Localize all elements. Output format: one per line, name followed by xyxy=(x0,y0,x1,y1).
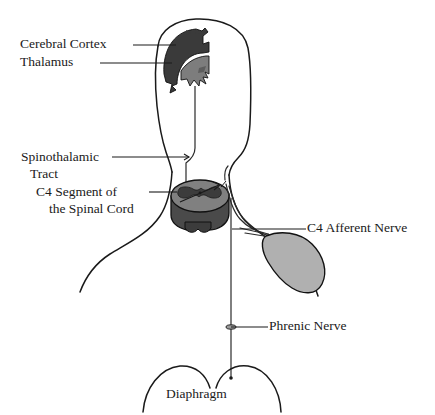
anatomy-diagram: Cerebral Cortex Thalamus Spinothalamic T… xyxy=(0,0,435,415)
spinothalamic-tract-line xyxy=(186,86,195,182)
spinothalamic-tract xyxy=(186,86,195,182)
label-diaphragm: Diaphragm xyxy=(166,386,227,402)
label-c4-afferent-nerve: C4 Afferent Nerve xyxy=(307,220,407,236)
phrenic-nerve-terminal-dot xyxy=(229,376,233,380)
label-cerebral-cortex-text: Cerebral Cortex xyxy=(20,36,107,51)
label-c4-afferent-nerve-text: C4 Afferent Nerve xyxy=(307,220,407,235)
label-cerebral-cortex: Cerebral Cortex xyxy=(20,36,107,52)
label-diaphragm-text: Diaphragm xyxy=(166,386,227,401)
label-phrenic-nerve: Phrenic Nerve xyxy=(269,318,347,334)
label-thalamus: Thalamus xyxy=(20,54,73,70)
referred-organ xyxy=(262,233,324,293)
label-c4-segment-line2: the Spinal Cord xyxy=(36,200,134,217)
label-spinothalamic-tract-line2: Tract xyxy=(21,165,99,182)
label-c4-segment: C4 Segment of the Spinal Cord xyxy=(36,183,134,217)
c4-spinal-cord-segment xyxy=(171,180,229,232)
c4-afferent-nerve-line-main xyxy=(226,184,268,234)
label-phrenic-nerve-text: Phrenic Nerve xyxy=(269,318,347,333)
label-spinothalamic-tract: Spinothalamic Tract xyxy=(21,148,99,182)
label-c4-segment-line1: C4 Segment of xyxy=(36,183,134,200)
label-thalamus-text: Thalamus xyxy=(20,54,73,69)
label-spinothalamic-tract-line1: Spinothalamic xyxy=(21,148,99,165)
c4-afferent-nerve-line-upper xyxy=(225,166,228,180)
spinal-cord-bottom-notch xyxy=(185,222,211,232)
organ-shape xyxy=(262,233,324,293)
phrenic-nerve xyxy=(226,198,236,380)
